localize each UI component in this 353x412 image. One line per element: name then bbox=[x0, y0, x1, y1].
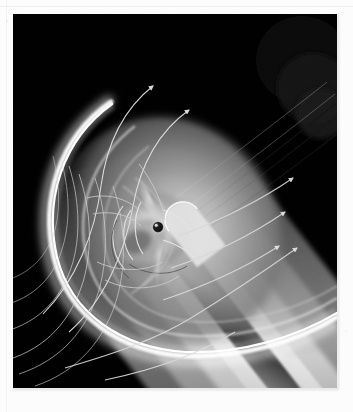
film-grain bbox=[13, 14, 337, 388]
paper-speck-2 bbox=[345, 330, 347, 332]
magnetosphere-visualization bbox=[13, 14, 337, 388]
print-shadow-bottom bbox=[13, 388, 338, 390]
paper-speck-1 bbox=[6, 20, 8, 22]
paper-edge-top bbox=[0, 6, 353, 7]
magnetosphere-image-plate bbox=[13, 14, 337, 388]
page-root bbox=[0, 0, 353, 412]
solar-wind-streamlines-layer bbox=[13, 14, 337, 388]
print-shadow-right bbox=[337, 14, 339, 389]
paper-edge-left bbox=[6, 0, 7, 412]
